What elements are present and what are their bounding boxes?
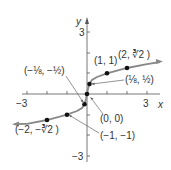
point-label-neg-eighth: (−⅛, −½) xyxy=(24,66,65,76)
x-axis-label: x xyxy=(158,99,163,110)
point-label-two: (2, ∛2 ) xyxy=(118,50,150,60)
leader-arrow-icon xyxy=(81,100,85,104)
point-label-one: (1, 1) xyxy=(94,56,117,66)
point-zero xyxy=(85,92,90,97)
x-tick-max: 3 xyxy=(143,98,149,109)
y-axis-label: y xyxy=(76,16,81,27)
y-axis-arrow-icon xyxy=(85,17,89,24)
point-label-neg2: (−2, −∛2 ) xyxy=(15,125,59,135)
y-tick-min: −3 xyxy=(72,151,83,162)
leader-arrow-icon xyxy=(69,115,73,117)
point-neg1 xyxy=(65,112,70,117)
point-neg2 xyxy=(45,118,50,123)
curve-right-arrow-icon xyxy=(156,59,163,64)
point-two xyxy=(125,66,130,71)
leader-lines xyxy=(66,76,124,133)
leader-arrow-icon xyxy=(90,97,94,100)
point-label-neg1: (−1, −1) xyxy=(100,131,135,141)
y-tick-max: 3 xyxy=(79,27,85,38)
graph-canvas xyxy=(0,0,171,170)
point-label-eighth: (⅛, ½) xyxy=(125,75,154,85)
point-one xyxy=(105,71,110,76)
point-neg-eighth xyxy=(82,102,87,107)
point-label-zero: (0, 0) xyxy=(100,114,123,124)
x-tick-min: −3 xyxy=(16,98,27,109)
